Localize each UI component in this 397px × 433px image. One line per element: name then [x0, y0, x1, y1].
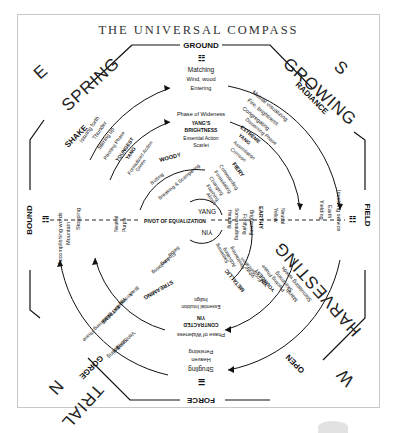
direction-e: E [30, 61, 52, 83]
outer-bottom-2: Heaven [191, 357, 210, 363]
season-spring: SPRING [58, 53, 124, 115]
outer-bottom-3: Persisting [189, 349, 214, 355]
trigram-field-symbol: ☷ [349, 215, 356, 224]
inner-fiery: FIERY [231, 161, 245, 178]
direction-w: W [332, 365, 358, 390]
inner-earthy-sub-1: Brightening [249, 210, 255, 236]
center-yin: YIN [201, 229, 212, 236]
middle-right-2: Yellow [273, 208, 279, 223]
outer-left-1: Accomplishing words [57, 212, 63, 265]
trigram-bound: BOUND [25, 205, 34, 235]
direction-n: N [44, 376, 67, 399]
outer-top-2: Wind, wood [186, 76, 215, 82]
middle-right-1: Neutral [280, 208, 286, 224]
middle-bottom-5: Indigo [194, 297, 208, 303]
pivot-of-equalization: PIVOT OF EQUALIZATION [144, 218, 206, 224]
middle-top-3: BRIGHTNESS [185, 127, 218, 133]
middle-top-5: Scarlet [193, 142, 209, 148]
trigram-open: OPEN [284, 352, 307, 375]
middle-left-1: Neutral [113, 216, 119, 232]
inner-woody: WOODY [159, 151, 182, 162]
inner-streaming: STREAMING [142, 279, 174, 301]
trigram-ground: GROUND [183, 41, 219, 50]
inner-woody-sub-1: Butting [149, 171, 165, 186]
outer-bottomleft-3: Venturing [116, 330, 137, 351]
outer-top-3: Entering [191, 85, 212, 91]
trigram-field: FIELD [363, 203, 372, 226]
trigram-force: FORCE [186, 396, 215, 405]
inner-center-right-1: Somersaulting [234, 208, 240, 240]
middle-bottom-4: Essential Intuition [181, 304, 220, 310]
middle-left-2: Purple [121, 217, 127, 232]
page-curl-shadow [318, 421, 348, 433]
inner-earthy: EARTHY [258, 206, 264, 229]
middle-top-2: YANG'S [192, 120, 211, 126]
outer-right-1: Involving service [336, 190, 342, 231]
middle-bottom-2: CONTRACTED [183, 322, 218, 328]
outer-left-2: Mountain [65, 222, 71, 245]
middle-bottom-1: Phase of Wideness [177, 332, 225, 338]
inner-woody-sub-2: Breaking & Scampering [157, 162, 201, 201]
middle-top-4: Essential Action [183, 135, 219, 141]
trigram-bound-symbol: ☶ [42, 215, 49, 224]
middle-top-1: Phase of Wideness [177, 111, 225, 117]
middle-bottom-3: YIN [196, 315, 205, 321]
trigram-ground-symbol: ☷ [198, 54, 205, 63]
inner-metallic: METALLIC [223, 268, 246, 293]
outer-top-1: Matching [188, 66, 215, 74]
trigram-force-symbol: ☰ [198, 378, 205, 387]
inner-center-right-2: Heading [227, 210, 233, 229]
outer-right-2: Earth [327, 205, 333, 218]
outer-left-3: Stopping [75, 208, 81, 230]
inner-earthy-sub-2: Fortifying [242, 214, 248, 235]
center-yang: YANG [198, 208, 216, 215]
direction-s: S [330, 57, 352, 79]
outer-right-3: Yielding [319, 200, 325, 220]
outer-bottom-1: Strugling [188, 365, 214, 373]
trigram-gorge: GORGE [77, 354, 105, 382]
